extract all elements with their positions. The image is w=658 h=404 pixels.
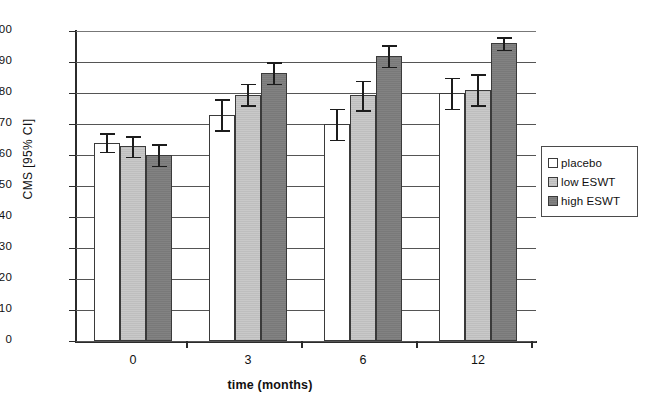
error-bar-line-placebo-3	[221, 99, 223, 130]
error-bar-cap-lower-high-eswt-3	[267, 84, 282, 86]
legend-label-high-eswt: high ESWT	[561, 195, 620, 207]
error-bar-cap-upper-low-eswt-3	[241, 84, 256, 86]
legend-swatch-high-eswt-icon	[548, 196, 558, 206]
y-tick-mark-20	[69, 279, 76, 281]
y-tick-mark-0	[69, 341, 76, 343]
y-tick-mark-30	[69, 248, 76, 250]
legend-swatch-placebo-icon	[548, 158, 558, 168]
error-bar-cap-lower-low-eswt-3	[241, 105, 256, 107]
y-tick-mark-80	[69, 93, 76, 95]
bar-high-eswt-12	[491, 43, 517, 341]
y-axis-title: CMS [95% CI]	[21, 59, 35, 259]
error-bar-line-placebo-0	[106, 133, 108, 152]
error-bar-line-low-eswt-12	[477, 74, 479, 105]
y-tick-mark-50	[69, 186, 76, 188]
error-bar-cap-lower-placebo-0	[100, 152, 115, 154]
x-tick-mark-6	[416, 341, 418, 348]
y-tick-label-10: 10	[0, 302, 12, 314]
bar-placebo-6	[324, 124, 350, 341]
error-bar-cap-upper-low-eswt-12	[471, 74, 486, 76]
y-tick-mark-100	[69, 31, 76, 33]
bar-low-eswt-3	[235, 95, 261, 341]
legend-item-low-eswt: low ESWT	[548, 172, 632, 191]
error-bar-line-high-eswt-6	[388, 45, 390, 67]
error-bar-cap-lower-placebo-3	[215, 130, 230, 132]
y-tick-label-50: 50	[0, 178, 12, 190]
x-tick-label-6: 6	[333, 353, 393, 367]
error-bar-line-low-eswt-6	[362, 81, 364, 110]
y-tick-label-60: 60	[0, 147, 12, 159]
x-tick-mark-12	[531, 341, 533, 348]
error-bar-line-high-eswt-3	[273, 62, 275, 84]
y-tick-label-40: 40	[0, 209, 12, 221]
bar-chart: CMS [95% CI] 03612 010203040506070809010…	[0, 0, 658, 404]
y-tick-label-0: 0	[0, 333, 12, 345]
legend-swatch-low-eswt-icon	[548, 177, 558, 187]
error-bar-cap-upper-placebo-12	[445, 78, 460, 80]
error-bar-cap-upper-high-eswt-0	[152, 144, 167, 146]
legend: placebo low ESWT high ESWT	[541, 146, 638, 217]
gridline-90	[76, 62, 536, 63]
bar-high-eswt-3	[261, 73, 287, 341]
error-bar-cap-upper-high-eswt-3	[267, 62, 282, 64]
bar-low-eswt-0	[120, 146, 146, 341]
error-bar-line-high-eswt-12	[503, 37, 505, 49]
error-bar-cap-lower-high-eswt-6	[382, 67, 397, 69]
error-bar-line-placebo-12	[451, 78, 453, 109]
x-tick-mark-0	[186, 341, 188, 348]
y-tick-mark-90	[69, 62, 76, 64]
error-bar-line-low-eswt-0	[132, 136, 134, 156]
error-bar-cap-upper-low-eswt-6	[356, 81, 371, 83]
error-bar-cap-upper-high-eswt-12	[497, 37, 512, 39]
error-bar-cap-upper-placebo-0	[100, 133, 115, 135]
legend-label-low-eswt: low ESWT	[561, 176, 615, 188]
y-tick-mark-70	[69, 124, 76, 126]
x-axis-title: time (months)	[0, 378, 540, 392]
error-bar-cap-lower-high-eswt-0	[152, 166, 167, 168]
bar-placebo-0	[94, 143, 120, 341]
bar-low-eswt-6	[350, 95, 376, 341]
legend-item-high-eswt: high ESWT	[548, 191, 632, 210]
y-tick-mark-60	[69, 155, 76, 157]
bar-low-eswt-12	[465, 90, 491, 341]
bar-high-eswt-0	[146, 155, 172, 341]
error-bar-cap-upper-placebo-6	[330, 109, 345, 111]
y-tick-mark-10	[69, 310, 76, 312]
error-bar-line-placebo-6	[336, 109, 338, 140]
x-tick-label-3: 3	[218, 353, 278, 367]
y-tick-label-80: 80	[0, 85, 12, 97]
x-tick-mark-3	[301, 341, 303, 348]
y-tick-label-30: 30	[0, 240, 12, 252]
y-tick-mark-40	[69, 217, 76, 219]
error-bar-cap-upper-high-eswt-6	[382, 45, 397, 47]
error-bar-line-high-eswt-0	[158, 144, 160, 166]
error-bar-cap-lower-low-eswt-12	[471, 105, 486, 107]
error-bar-cap-upper-placebo-3	[215, 99, 230, 101]
error-bar-cap-lower-low-eswt-6	[356, 110, 371, 112]
gridline-0	[76, 341, 536, 342]
legend-item-placebo: placebo	[548, 153, 632, 172]
y-tick-label-100: 100	[0, 23, 12, 35]
plot-area: 03612	[76, 31, 536, 341]
error-bar-cap-upper-low-eswt-0	[126, 136, 141, 138]
x-tick-label-0: 0	[103, 353, 163, 367]
gridline-100	[76, 31, 536, 32]
bar-placebo-3	[209, 115, 235, 341]
error-bar-cap-lower-placebo-12	[445, 109, 460, 111]
y-tick-label-90: 90	[0, 54, 12, 66]
legend-label-placebo: placebo	[561, 157, 602, 169]
bar-high-eswt-6	[376, 56, 402, 341]
y-tick-label-70: 70	[0, 116, 12, 128]
y-tick-label-20: 20	[0, 271, 12, 283]
error-bar-cap-lower-high-eswt-12	[497, 50, 512, 52]
bar-placebo-12	[439, 93, 465, 341]
error-bar-line-low-eswt-3	[247, 84, 249, 106]
x-tick-label-12: 12	[448, 353, 508, 367]
error-bar-cap-lower-low-eswt-0	[126, 157, 141, 159]
error-bar-cap-lower-placebo-6	[330, 140, 345, 142]
